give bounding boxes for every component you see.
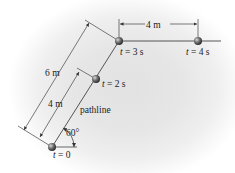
time-label-t4: t = 4 s	[186, 47, 210, 57]
particle-t3-icon	[115, 37, 123, 45]
dim-6m-label: 6 m	[45, 68, 60, 78]
time-label-t2: t = 2 s	[102, 79, 126, 89]
dim-4m-horizontal-label: 4 m	[146, 20, 161, 30]
particle-t4-icon	[194, 37, 202, 45]
particle-t2-icon	[92, 75, 100, 83]
time-label-t3: t = 3 s	[120, 47, 144, 57]
pathline-diagram: 4 m 6 m 4 m pathline 60° t = 0 t = 2 s t…	[0, 0, 235, 173]
angle-label: 60°	[66, 128, 80, 138]
pathline-diagonal	[52, 41, 119, 147]
time-label-t0: t = 0	[53, 150, 71, 160]
pathline-label: pathline	[80, 105, 111, 115]
dim-6m-ext-top	[85, 20, 119, 41]
dim-4m-inner-label: 4 m	[48, 99, 63, 109]
dim-6m-ext-bottom	[18, 126, 52, 147]
particle-t0-icon	[48, 143, 56, 151]
